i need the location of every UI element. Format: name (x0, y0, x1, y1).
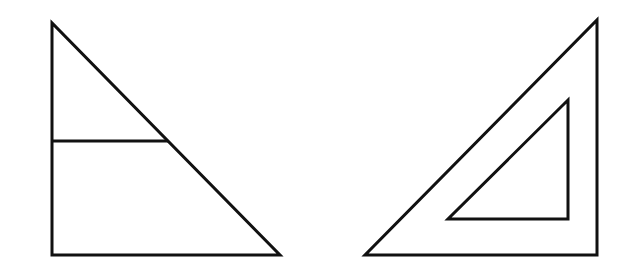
diagram-canvas (0, 0, 628, 279)
left-triangle-figure (52, 23, 280, 255)
right-triangle-figure (365, 20, 597, 255)
left-right-triangle (52, 23, 280, 255)
inner-triangle-cutout (448, 100, 568, 219)
